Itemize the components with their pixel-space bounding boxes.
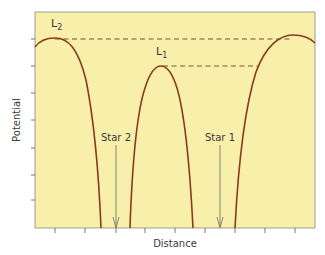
star2-label: Star 2	[101, 132, 131, 143]
potential-diagram: L2 L1 Star 2 Star 1 Distance Potential	[0, 0, 325, 255]
y-axis-ticks	[31, 39, 35, 200]
x-axis-ticks	[55, 228, 295, 233]
y-axis-label: Potential	[11, 98, 22, 142]
x-axis-label: Distance	[153, 238, 197, 249]
star1-label: Star 1	[205, 132, 235, 143]
